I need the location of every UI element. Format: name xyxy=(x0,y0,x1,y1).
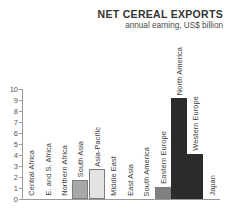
category-label: Middle East xyxy=(109,156,118,196)
chart-title: NET CEREAL EXPORTS xyxy=(98,8,223,20)
bar-group[interactable]: Eastern Europe xyxy=(154,89,170,199)
bar[interactable] xyxy=(171,98,187,199)
y-tick-mark xyxy=(19,188,22,189)
y-tick-label: 8 xyxy=(14,107,18,116)
y-tick-mark xyxy=(19,199,22,200)
y-tick-label: 7 xyxy=(14,118,18,127)
y-tick-mark xyxy=(19,144,22,145)
y-tick-label: 1 xyxy=(14,184,18,193)
y-tick-label: 3 xyxy=(14,162,18,171)
plot-area: 012345678910 Central AfricaE. and S. Afr… xyxy=(22,89,222,200)
y-tick-label: 5 xyxy=(14,140,18,149)
bar-group[interactable]: South Asia xyxy=(72,89,88,199)
category-label: Western Europe xyxy=(191,96,200,151)
y-tick-mark xyxy=(19,133,22,134)
category-label: North America xyxy=(174,47,183,95)
chart-title-block: NET CEREAL EXPORTS annual earning, US$ b… xyxy=(98,8,223,30)
y-tick-mark xyxy=(19,100,22,101)
y-tick-mark xyxy=(19,166,22,167)
y-tick-label: 10 xyxy=(10,85,18,94)
y-tick-mark xyxy=(19,122,22,123)
category-label: East Asia xyxy=(125,164,134,196)
x-axis-line xyxy=(22,199,220,200)
bar-series: Central AfricaE. and S. AfricaNorthern A… xyxy=(23,89,220,199)
bar[interactable] xyxy=(72,180,88,199)
category-label: South Asia xyxy=(76,141,85,177)
category-label: Asia-Pacific xyxy=(92,127,101,167)
y-tick-label: 4 xyxy=(14,151,18,160)
bar-group[interactable]: E. and S. Africa xyxy=(39,89,55,199)
y-tick-label: 6 xyxy=(14,129,18,138)
y-tick-mark xyxy=(19,111,22,112)
category-label: South America xyxy=(142,147,151,196)
net-cereal-exports-chart: NET CEREAL EXPORTS annual earning, US$ b… xyxy=(0,0,233,212)
chart-subtitle: annual earning, US$ billion xyxy=(98,21,223,30)
y-tick-label: 2 xyxy=(14,173,18,182)
bar-group[interactable]: Northern Africa xyxy=(56,89,72,199)
y-tick-mark xyxy=(19,89,22,90)
bar-group[interactable]: Western Europe xyxy=(187,89,203,199)
bar[interactable] xyxy=(187,154,203,199)
category-label: Japan xyxy=(207,175,216,196)
y-tick-mark xyxy=(19,177,22,178)
bar[interactable] xyxy=(89,169,105,199)
bar-group[interactable]: South America xyxy=(138,89,154,199)
bar-group[interactable]: Japan xyxy=(204,89,220,199)
category-label: E. and S. Africa xyxy=(43,143,52,196)
category-label: Northern Africa xyxy=(60,145,69,196)
category-label: Eastern Europe xyxy=(158,131,167,184)
bar-group[interactable]: Middle East xyxy=(105,89,121,199)
bar[interactable] xyxy=(155,187,171,199)
bar-group[interactable]: Asia-Pacific xyxy=(89,89,105,199)
category-label: Central Africa xyxy=(27,150,36,196)
y-tick-mark xyxy=(19,155,22,156)
y-tick-label: 0 xyxy=(14,195,18,204)
bar-group[interactable]: North America xyxy=(171,89,187,199)
bar-group[interactable]: Central Africa xyxy=(23,89,39,199)
y-tick-label: 9 xyxy=(14,96,18,105)
bar-group[interactable]: East Asia xyxy=(122,89,138,199)
